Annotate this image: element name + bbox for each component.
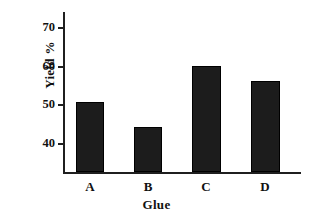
y-tick-label: 50: [43, 98, 56, 111]
y-axis-line: [63, 12, 65, 174]
y-tick-mark: [58, 27, 64, 29]
x-tick-label-b: B: [144, 180, 153, 193]
bar-d: [251, 81, 280, 172]
y-tick-label: 40: [43, 136, 56, 149]
plot-area: 70 60 50 40 A B C D: [63, 12, 301, 174]
y-tick-label: 60: [43, 59, 56, 72]
bar-b: [134, 127, 162, 172]
y-tick-mark: [58, 66, 64, 68]
y-tick-mark: [58, 143, 64, 145]
y-tick-mark: [58, 104, 64, 106]
bar-chart-figure: Yield % 70 60 50 40 A B C D Glue: [0, 0, 313, 220]
x-axis-line: [63, 172, 301, 174]
x-tick-label-a: A: [85, 180, 94, 193]
x-axis-title: Glue: [0, 197, 313, 213]
bar-a: [76, 102, 104, 172]
x-tick-label-d: D: [260, 180, 269, 193]
y-tick-label: 70: [43, 21, 56, 34]
x-tick-label-c: C: [201, 180, 210, 193]
bar-c: [192, 66, 221, 172]
